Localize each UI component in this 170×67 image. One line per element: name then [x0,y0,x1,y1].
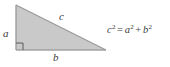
pythagorean-equation: c2=a2+b2 [107,24,152,36]
equation-plus-sign: + [134,24,143,35]
label-hypotenuse-c: c [59,11,64,22]
pythagorean-theorem-figure: a b c c2=a2+b2 [0,0,170,67]
label-leg-a: a [3,28,9,39]
equation-term2-exponent: 2 [148,23,152,31]
equation-equals-sign: = [116,24,125,35]
label-leg-b: b [53,52,59,63]
